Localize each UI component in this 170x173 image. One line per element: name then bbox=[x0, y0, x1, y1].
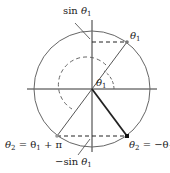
theta1-point-label: θ1 bbox=[130, 31, 141, 43]
point-neg-theta1 bbox=[125, 134, 129, 138]
neg-sin-theta1-label: −sin θ1 bbox=[55, 157, 92, 169]
unit-circle-diagram: sin θ1 θ1 θ1 θ2 = θ1 + π θ2 = −θ1 −sin θ… bbox=[0, 0, 170, 173]
sin-theta1-label: sin θ1 bbox=[63, 6, 91, 18]
theta2-pi-label: θ2 = θ1 + π bbox=[5, 140, 62, 152]
theta2-neg-label: θ2 = −θ1 bbox=[129, 140, 170, 152]
point-theta1 bbox=[125, 40, 129, 44]
theta1-angle-label: θ1 bbox=[96, 78, 107, 90]
point-theta1-plus-pi bbox=[55, 134, 59, 138]
radius-neg-theta1 bbox=[92, 89, 127, 136]
